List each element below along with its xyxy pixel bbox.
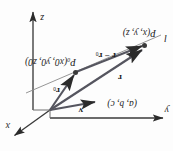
- axis-x: [15, 110, 51, 136]
- point-label-P0-main: P: [70, 57, 76, 67]
- vector-label-v: v: [79, 106, 84, 115]
- point-label-P0-coords: (x0, y0, z0): [25, 57, 67, 67]
- point-label-P0: P0(x0, y0, z0): [25, 56, 76, 66]
- line-label-l: l: [164, 33, 167, 43]
- difference-sub: 0: [96, 51, 99, 57]
- vector-label-difference: r − r0: [96, 50, 116, 60]
- point-label-P-main: P: [150, 28, 156, 38]
- vector-label-r0-sub: 0: [53, 86, 56, 92]
- point-label-P: P(x, y, z): [123, 28, 156, 38]
- point-label-P-coords: (x, y, z): [123, 28, 150, 38]
- axis-label-y: y: [165, 105, 169, 115]
- figure-canvas: x y z l v (a, b, c) r r0 r − r0 P(x, y, …: [0, 0, 173, 151]
- vector-label-r0: r0: [53, 85, 60, 95]
- diagram-svg: [0, 0, 173, 151]
- point-marker-P: [142, 43, 147, 48]
- vector-label-r0-main: r: [56, 86, 60, 96]
- axis-label-z: z: [40, 13, 44, 23]
- difference-main: r − r: [99, 51, 116, 61]
- point-marker-P0: [73, 70, 78, 75]
- point-label-P0-sub: 0: [67, 57, 70, 63]
- axis-label-x: x: [6, 121, 10, 131]
- v-components-label: (a, b, c): [107, 99, 137, 109]
- vector-label-r: r: [118, 73, 122, 82]
